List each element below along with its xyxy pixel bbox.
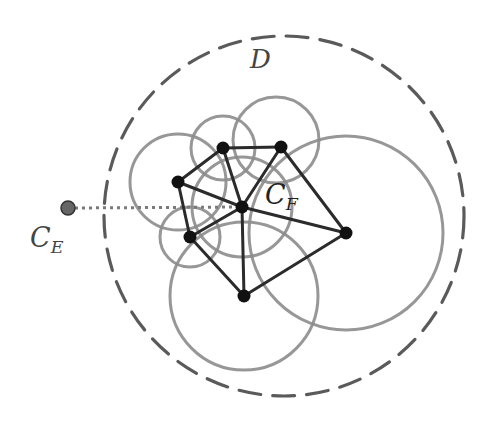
label-ce: CE (30, 224, 63, 257)
external-point-ce (61, 201, 75, 215)
disk-packing-diagram (0, 0, 494, 423)
label-cf: CF (265, 181, 298, 214)
packing-circles (130, 97, 443, 370)
vertex (172, 176, 185, 189)
dotted-link-ce-cf (75, 207, 242, 208)
vertex (275, 141, 288, 154)
graph-edge (242, 207, 244, 296)
label-ce-main: C (30, 222, 51, 253)
vertex (340, 227, 353, 240)
label-cf-main: C (265, 179, 286, 210)
label-ce-sub: E (51, 237, 64, 257)
dotted-link (75, 207, 242, 208)
vertex (184, 231, 197, 244)
graph-edge (178, 182, 242, 207)
point-ce (61, 201, 75, 215)
vertex-cf (236, 201, 249, 214)
label-d: D (250, 46, 271, 72)
graph-edge (223, 147, 281, 148)
label-d-text: D (250, 44, 271, 74)
vertex (217, 142, 230, 155)
label-cf-sub: F (286, 194, 298, 214)
vertex (238, 290, 251, 303)
